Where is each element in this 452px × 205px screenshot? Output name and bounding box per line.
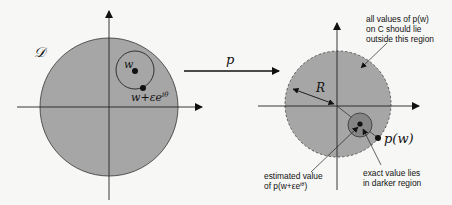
point-w-label: w — [124, 58, 134, 71]
mapping-label: p — [226, 52, 235, 67]
excluded-disk — [285, 51, 391, 157]
mapping-arrow: p — [184, 52, 279, 71]
domain-label: 𝒟 — [34, 44, 48, 60]
point-pw — [375, 135, 381, 141]
diagram-canvas: 𝒟 w w+εeiθ p R p(w) all values of p(w) o… — [0, 0, 452, 205]
point-pw-label: p(w) — [384, 131, 414, 146]
pointer-top — [361, 43, 387, 68]
left-panel: 𝒟 w w+εeiθ — [17, 11, 202, 200]
annotation-top: all values of p(w) on C should lie outsi… — [366, 14, 434, 44]
annotation-estimated: estimated value of p(w+εeiθ) — [264, 171, 325, 191]
radius-label: R — [315, 81, 325, 95]
estimated-value-point — [357, 121, 362, 126]
annotation-exact: exact value lies in darker region — [363, 168, 423, 188]
right-panel: R p(w) all values of p(w) on C should li… — [258, 14, 434, 191]
